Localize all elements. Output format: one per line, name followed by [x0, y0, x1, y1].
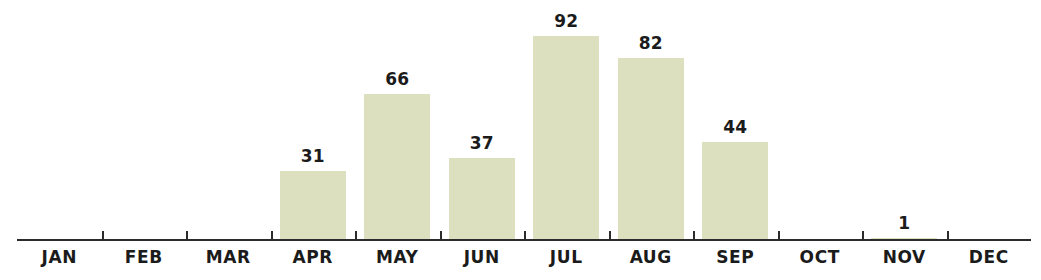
bar-aug[interactable] [618, 58, 684, 240]
bar-chart: 31 66 37 92 82 44 [0, 0, 1041, 280]
x-axis-tick [947, 231, 949, 240]
bar-value-label: 92 [524, 13, 609, 30]
bar-slot-oct[interactable] [778, 0, 863, 240]
x-axis-tick [440, 231, 442, 240]
bar-value-label: 66 [355, 71, 440, 88]
x-label-oct: OCT [778, 246, 863, 276]
x-axis-tick [609, 231, 611, 240]
bar-sep[interactable] [702, 142, 768, 240]
x-label-aug: AUG [609, 246, 694, 276]
bar-value-label: 1 [862, 215, 947, 232]
bar-slot-may[interactable]: 66 [355, 0, 440, 240]
plot-area: 31 66 37 92 82 44 [17, 0, 1031, 240]
bar-jul[interactable] [533, 36, 599, 240]
x-axis-tick [778, 231, 780, 240]
x-axis-category-labels: JAN FEB MAR APR MAY JUN JUL AUG SEP OCT … [17, 246, 1031, 276]
bar-slot-jan[interactable] [17, 0, 102, 240]
bar-series: 31 66 37 92 82 44 [17, 0, 1031, 240]
bar-slot-apr[interactable]: 31 [271, 0, 356, 240]
bar-slot-nov[interactable]: 1 [862, 0, 947, 240]
bar-apr[interactable] [280, 171, 346, 240]
x-label-dec: DEC [947, 246, 1032, 276]
x-axis-ticks [17, 231, 1031, 240]
bar-may[interactable] [364, 94, 430, 240]
bar-slot-jun[interactable]: 37 [440, 0, 525, 240]
x-label-apr: APR [271, 246, 356, 276]
bar-slot-sep[interactable]: 44 [693, 0, 778, 240]
bar-value-label: 44 [693, 119, 778, 136]
bar-jun[interactable] [449, 158, 515, 240]
bar-slot-jul[interactable]: 92 [524, 0, 609, 240]
bar-slot-aug[interactable]: 82 [609, 0, 694, 240]
x-label-jul: JUL [524, 246, 609, 276]
bar-slot-dec[interactable] [947, 0, 1032, 240]
bar-value-label: 82 [609, 35, 694, 52]
x-axis-tick [186, 231, 188, 240]
x-axis-tick [693, 231, 695, 240]
bar-slot-mar[interactable] [186, 0, 271, 240]
x-axis-tick [271, 231, 273, 240]
x-axis-tick [524, 231, 526, 240]
bar-value-label: 37 [440, 135, 525, 152]
x-axis-tick [862, 231, 864, 240]
x-label-may: MAY [355, 246, 440, 276]
x-label-jan: JAN [17, 246, 102, 276]
x-label-feb: FEB [102, 246, 187, 276]
bar-value-label: 31 [271, 148, 356, 165]
x-axis-tick [355, 231, 357, 240]
x-label-sep: SEP [693, 246, 778, 276]
bar-slot-feb[interactable] [102, 0, 187, 240]
x-label-mar: MAR [186, 246, 271, 276]
x-label-jun: JUN [440, 246, 525, 276]
x-label-nov: NOV [862, 246, 947, 276]
x-axis-tick [102, 231, 104, 240]
